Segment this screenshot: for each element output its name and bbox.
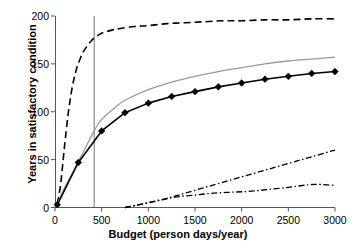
dashed-upper-curve: [57, 19, 335, 204]
x-tick-label: 2000: [230, 214, 253, 226]
x-tick-label: 1000: [137, 214, 160, 226]
y-axis-ticks: [51, 16, 55, 208]
y-axis-title: Years in satisfactory condition: [26, 4, 38, 204]
data-point-marker: [168, 93, 175, 100]
chart-plot-area: [0, 0, 356, 249]
data-point-marker: [285, 73, 292, 80]
x-tick-label: 2500: [277, 214, 300, 226]
x-tick-label: 0: [52, 214, 58, 226]
x-tick-label: 500: [93, 214, 111, 226]
x-tick-label: 3000: [323, 214, 346, 226]
data-point-marker: [145, 100, 152, 107]
x-tick-label: 1500: [183, 214, 206, 226]
axes-group: [51, 16, 335, 212]
rising-dash-dot-curve: [125, 150, 335, 207]
x-axis-title: Budget (person days/year): [0, 228, 356, 240]
data-point-marker: [308, 70, 315, 77]
data-point-marker: [192, 88, 199, 95]
chart-series: [54, 19, 338, 208]
data-point-marker: [238, 80, 245, 87]
chart-figure: 050010001500200025003000 050100150200 Bu…: [0, 0, 356, 249]
data-point-marker: [262, 76, 269, 83]
flat-dash-dot-curve: [125, 184, 335, 207]
data-point-marker: [332, 68, 339, 75]
data-point-marker: [215, 83, 222, 90]
x-axis-ticks: [55, 208, 335, 212]
